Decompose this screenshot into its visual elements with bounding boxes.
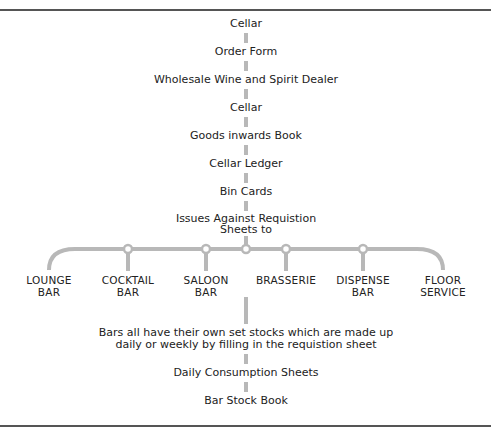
- junction-cocktail: [124, 245, 132, 253]
- connector: [244, 382, 248, 392]
- branch-label: SERVICE: [420, 286, 466, 298]
- node-bar-stock-book: Bar Stock Book: [204, 395, 288, 407]
- branch-floor-service: FLOOR SERVICE: [420, 274, 466, 298]
- connector: [244, 354, 248, 364]
- branch-label: BAR: [26, 286, 71, 298]
- branch-dispense-bar: DISPENSE BAR: [336, 274, 390, 298]
- branch-lounge-bar: LOUNGE BAR: [26, 274, 71, 298]
- node-bars-set-stocks: Bars all have their own set stocks which…: [99, 327, 393, 351]
- branch-label: DISPENSE: [336, 274, 390, 286]
- branch-cocktail-bar: COCKTAIL BAR: [102, 274, 154, 298]
- branch-label: BAR: [102, 286, 154, 298]
- branch-label: FLOOR: [420, 274, 466, 286]
- junction-saloon: [202, 245, 210, 253]
- branch-label: BAR: [336, 286, 390, 298]
- branch-label: COCKTAIL: [102, 274, 154, 286]
- junction-dispense: [359, 245, 367, 253]
- node-bars-line2: daily or weekly by filling in the requis…: [99, 339, 393, 351]
- branch-brasserie: BRASSERIE: [256, 274, 316, 286]
- branch-label: BRASSERIE: [256, 274, 316, 286]
- node-daily-consumption-sheets: Daily Consumption Sheets: [173, 367, 318, 379]
- branch-saloon-bar: SALOON BAR: [183, 274, 228, 298]
- junction-brasserie: [282, 245, 290, 253]
- branch-label: SALOON: [183, 274, 228, 286]
- branch-label: BAR: [183, 286, 228, 298]
- junction-center: [242, 245, 250, 253]
- branch-label: LOUNGE: [26, 274, 71, 286]
- connector: [244, 297, 248, 324]
